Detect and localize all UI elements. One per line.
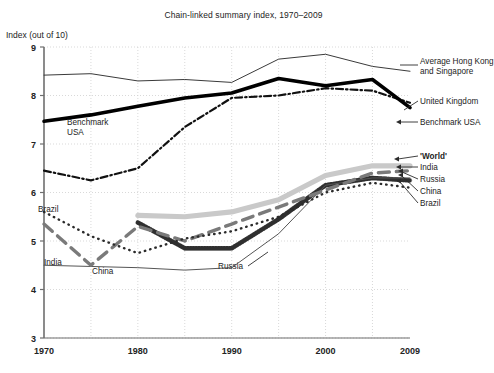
series-hong-kong-singapore	[44, 54, 410, 82]
y-tick-label: 4	[31, 285, 36, 295]
annotation-brazil: Brazil	[38, 205, 58, 215]
leader-world	[398, 156, 418, 159]
right-label-russia: Russia	[420, 175, 445, 185]
right-label-china: China	[420, 187, 441, 197]
right-label-hk-line1: Average Hong Kong	[420, 57, 494, 67]
annotation-india: India	[44, 258, 62, 268]
y-tick-label: 7	[31, 140, 36, 150]
annotation-china: China	[92, 267, 113, 277]
y-tick-label: 8	[31, 91, 36, 101]
right-label-hk-line2: and Singapore	[420, 67, 494, 77]
series-brazil	[44, 183, 410, 253]
leader-brazil	[400, 182, 418, 203]
annotation-russia: Russia	[218, 262, 243, 272]
right-label-world: 'World'	[420, 152, 447, 162]
y-tick-label: 9	[31, 43, 36, 53]
x-tick-label: 1970	[34, 346, 54, 356]
right-label-united-kingdom: United Kingdom	[420, 97, 478, 107]
x-tick-label: 1990	[222, 346, 242, 356]
x-tick-label: 2009	[400, 346, 420, 356]
arrow-world	[394, 157, 399, 162]
x-tick-label: 2000	[316, 346, 336, 356]
right-label-brazil: Brazil	[420, 199, 440, 209]
arrow-china	[398, 173, 403, 178]
series-india	[44, 171, 410, 266]
annotation-benchmark-usa: Benchmark USA	[67, 118, 108, 137]
annotation-benchmark-usa-line2: USA	[67, 128, 108, 138]
right-label-hong-kong-singapore: Average Hong Kong and Singapore	[420, 57, 494, 76]
y-tick-label: 6	[31, 188, 36, 198]
y-tick-label: 3	[31, 334, 36, 344]
right-label-india: India	[420, 163, 438, 173]
annotation-benchmark-usa-line1: Benchmark	[67, 118, 108, 128]
y-tick-label: 5	[31, 237, 36, 247]
x-tick-label: 1980	[128, 346, 148, 356]
right-label-benchmark-usa: Benchmark USA	[420, 118, 481, 128]
arrow-benchmark-usa	[396, 120, 401, 125]
